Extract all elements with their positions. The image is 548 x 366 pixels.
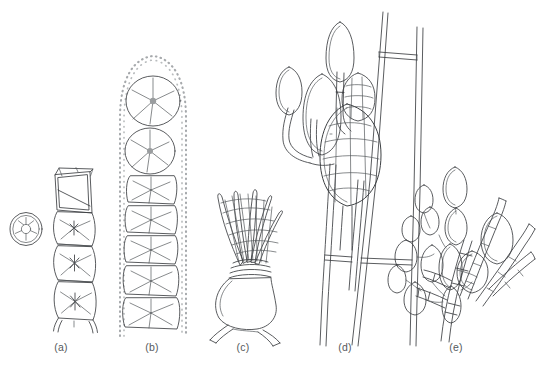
panel-caption-e: (e) [436, 341, 476, 353]
panel-caption-b: (b) [132, 341, 172, 353]
figure-background [0, 0, 548, 366]
figure-root: (a) (b) (c) (d) (e) [0, 0, 548, 366]
panel-caption-d: (d) [325, 341, 365, 353]
panel-caption-c: (c) [223, 341, 263, 353]
figure-illustration [0, 0, 548, 366]
panel-caption-a: (a) [41, 341, 81, 353]
